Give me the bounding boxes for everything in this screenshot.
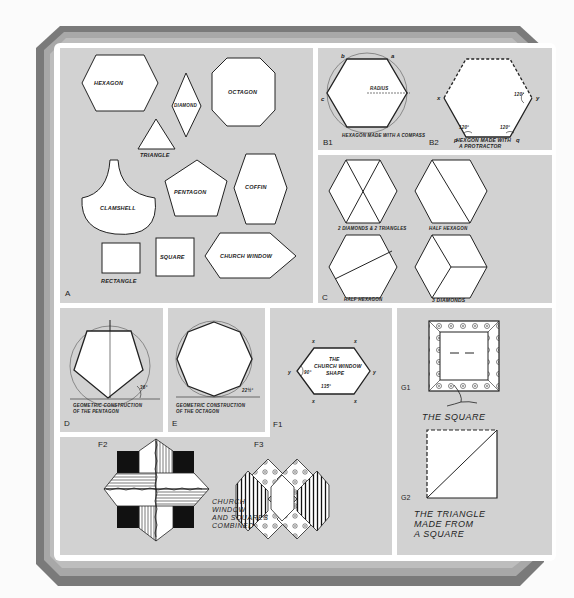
c-caption-4: 3 DIAMONDS — [432, 297, 465, 303]
g1-caption: THE SQUARE — [422, 412, 486, 422]
f2-church-window-star — [104, 439, 209, 541]
panel-g1-label: G1 — [401, 384, 410, 391]
diamond-label: DIAMOND — [174, 103, 197, 108]
b2-protractor-hexagon — [444, 59, 532, 137]
panel-d-label: D — [64, 419, 70, 428]
b1-point-b: b — [341, 53, 345, 59]
f1-title-line1: THE — [329, 356, 340, 362]
panel-f1-label: F1 — [273, 420, 282, 429]
d-caption-line1: GEOMETRIC CONSTRUCTION — [73, 403, 142, 408]
g1-square-quilt — [429, 321, 499, 406]
panel-g: G1 THE SQUARE G2 THE TRIANGLE MADE FROM … — [397, 308, 552, 555]
f1-point-y-left: y — [288, 369, 291, 375]
g2-caption-line1: THE TRIANGLE — [414, 509, 486, 519]
g2-triangle-from-square — [427, 430, 497, 498]
f1-point-x: x — [354, 398, 357, 404]
panel-e-label: E — [172, 419, 177, 428]
panel-f3-label: F3 — [254, 440, 263, 449]
f2-f3-content: F2 F3 CHURCH WINDOW AND SQUARES COMBINED — [60, 437, 392, 555]
b2-angle-2: 120° — [459, 125, 469, 130]
clamshell-shape — [82, 160, 156, 234]
panel-a: HEXAGON DIAMOND OCTAGON TRIANGLE CLAMSHE… — [60, 48, 313, 303]
b2-point-x: x — [437, 95, 441, 101]
hexagon-label: HEXAGON — [94, 80, 123, 86]
e-caption-line1: GEOMETRIC CONSTRUCTION — [176, 403, 245, 408]
f2-caption-line1: CHURCH — [212, 498, 268, 506]
d-angle: 36° — [140, 385, 147, 390]
f2-caption-line3: AND SQUARES — [212, 514, 268, 522]
coffin-label: COFFIN — [245, 184, 267, 190]
c-caption-3: HALF HEXAGON — [344, 297, 382, 302]
church-window-label: CHURCH WINDOW — [220, 253, 272, 259]
panel-b2-label: B2 — [429, 138, 439, 147]
b2-point-y: y — [536, 95, 540, 101]
pentagon-shape — [165, 160, 227, 216]
panel-c: 2 DIAMONDS & 2 TRIANGLES HALF HEXAGON HA… — [318, 155, 552, 303]
clamshell-label: CLAMSHELL — [100, 205, 136, 211]
b1-point-c: c — [321, 96, 325, 102]
e-angle: 22½° — [242, 388, 253, 393]
triangle-shape — [138, 119, 175, 149]
c-caption-2: HALF HEXAGON — [429, 226, 467, 231]
panel-c-label: C — [322, 293, 328, 302]
panel-b: b a c RADIUS HEXAGON MADE WITH A COMPASS… — [318, 48, 552, 150]
f1-point-x: x — [312, 338, 315, 344]
panel-d: 36° GEOMETRIC CONSTRUCTION OF THE PENTAG… — [60, 308, 163, 432]
f2-caption-line2: WINDOW — [212, 506, 268, 514]
b2-angle-1: 120° — [514, 92, 524, 97]
panel-e: 22½° GEOMETRIC CONSTRUCTION OF THE OCTAG… — [168, 308, 265, 432]
f1-point-x: x — [354, 338, 357, 344]
b1-compass-hexagon — [327, 53, 410, 133]
c-caption-1: 2 DIAMONDS & 2 TRIANGLES — [338, 226, 407, 231]
panel-f2-label: F2 — [98, 440, 107, 449]
panel-g2-label: G2 — [401, 494, 410, 501]
square-label: SQUARE — [160, 254, 185, 260]
e-caption-line2: OF THE OCTAGON — [176, 409, 219, 414]
f1-title-line2: CHURCH WINDOW — [314, 363, 362, 369]
rectangle-shape — [102, 243, 140, 273]
radius-label: RADIUS — [370, 86, 388, 91]
b2-caption-line2: A PROTRACTOR — [459, 143, 501, 149]
b1-caption: HEXAGON MADE WITH A COMPASS — [342, 133, 425, 138]
f1-point-x: x — [312, 398, 315, 404]
f1-point-y-right: y — [373, 369, 376, 375]
f1-content: THE CHURCH WINDOW SHAPE 90° 135° y y x x… — [270, 308, 392, 433]
g2-caption-line3: A SQUARE — [414, 529, 486, 539]
pentagon-label: PENTAGON — [174, 189, 206, 195]
f1-angle-90: 90° — [304, 370, 311, 375]
panel-b1-label: B1 — [323, 138, 333, 147]
f2-caption: CHURCH WINDOW AND SQUARES COMBINED — [212, 498, 268, 530]
f2-caption-line4: COMBINED — [212, 522, 268, 530]
panel-a-label: A — [65, 289, 70, 298]
f1-angle-135: 135° — [321, 384, 331, 389]
rectangle-label: RECTANGLE — [101, 278, 137, 284]
f1-title-line3: SHAPE — [326, 370, 344, 376]
b2-point-q: q — [516, 137, 520, 143]
octagon-label: OCTAGON — [228, 89, 257, 95]
d-caption-line2: OF THE PENTAGON — [73, 409, 119, 414]
triangle-label: TRIANGLE — [140, 152, 170, 158]
b1-point-a: a — [391, 53, 395, 59]
g2-caption-line2: MADE FROM — [414, 519, 486, 529]
g2-caption: THE TRIANGLE MADE FROM A SQUARE — [414, 509, 486, 539]
b2-angle-3: 120° — [500, 125, 510, 130]
